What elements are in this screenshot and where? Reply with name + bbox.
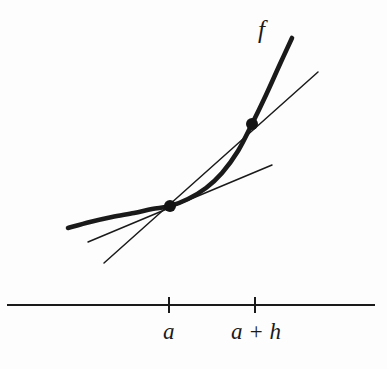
calculus-secant-tangent-figure: f a a + h [0,0,387,369]
secant-line [104,72,318,263]
axis-label-a: a [163,320,175,343]
function-label-f: f [258,17,265,42]
point-marker-a-plus-h [246,118,258,130]
function-curve-f [68,38,292,228]
axis-label-a-plus-h: a + h [231,320,281,343]
point-marker-a [164,200,176,212]
figure-canvas [0,0,387,369]
